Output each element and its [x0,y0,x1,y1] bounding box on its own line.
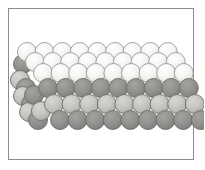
lattice-sphere-r6-c5 [121,111,140,130]
lattice-sphere-r6-c8 [174,111,193,130]
lattice-group [11,43,205,130]
lattice-sphere-r6-c4 [103,111,122,130]
lattice-sphere-r6-c7 [156,111,175,130]
lattice-sphere-r6-c2 [68,111,87,130]
close-packed-sphere-lattice [0,0,204,170]
lattice-sphere-r6-c6 [139,111,158,130]
lattice-sphere-r6-c1 [51,111,70,130]
lattice-sphere-r6-c3 [86,111,105,130]
